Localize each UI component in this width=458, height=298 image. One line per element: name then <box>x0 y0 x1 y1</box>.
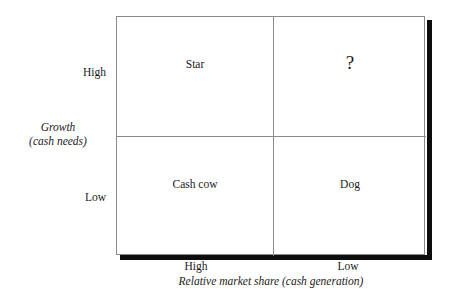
x-axis-tick-low: Low <box>308 260 388 272</box>
quadrant-star: Star <box>117 17 273 136</box>
y-axis-title-line1: Growth <box>6 120 110 134</box>
quadrant-dog: Dog <box>274 137 426 256</box>
y-axis-tick-low: Low <box>46 191 106 203</box>
bcg-growth-share-matrix-figure: Star ? Cash cow Dog High Low Growth (cas… <box>0 0 458 298</box>
quadrant-dog-label: Dog <box>340 178 360 192</box>
x-axis-tick-high: High <box>156 260 236 272</box>
matrix-frame: Star ? Cash cow Dog <box>116 16 425 255</box>
quadrant-question-mark-label: ? <box>346 52 354 75</box>
x-axis-title: Relative market share (cash generation) <box>79 275 458 287</box>
quadrant-question-mark: ? <box>274 17 426 136</box>
quadrant-cash-cow: Cash cow <box>117 137 273 256</box>
y-axis-title: Growth (cash needs) <box>6 120 110 148</box>
y-axis-tick-high: High <box>46 66 106 78</box>
y-axis-title-line2: (cash needs) <box>6 134 110 148</box>
quadrant-cash-cow-label: Cash cow <box>172 178 217 192</box>
quadrant-star-label: Star <box>186 58 205 72</box>
matrix-shadow-right <box>427 20 432 259</box>
